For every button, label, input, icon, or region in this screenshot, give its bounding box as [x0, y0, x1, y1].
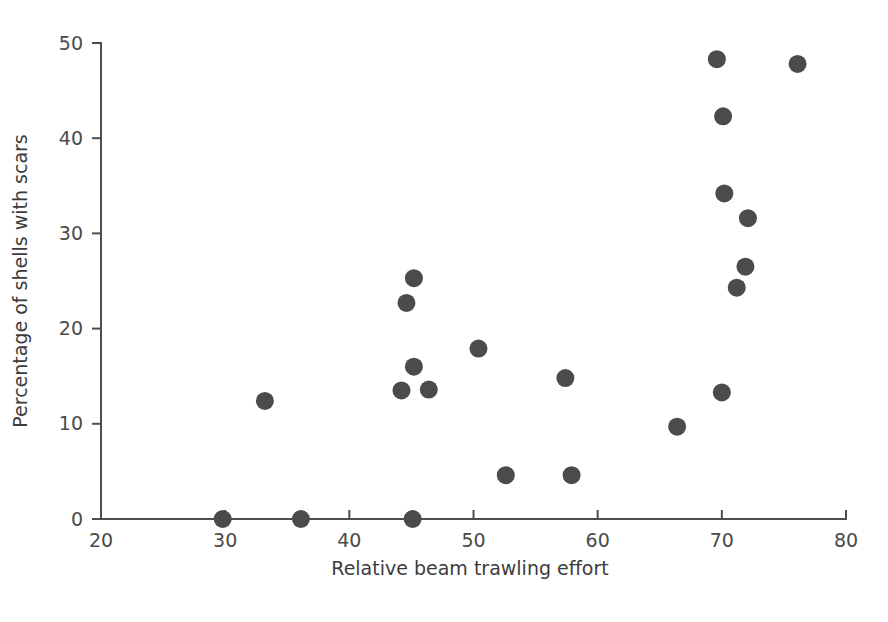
data-point	[736, 258, 754, 276]
y-tick-label: 50	[59, 32, 83, 54]
y-tick-label: 40	[59, 127, 83, 149]
x-tick-label: 70	[710, 529, 734, 551]
y-tick-label: 10	[59, 412, 83, 434]
data-point	[714, 107, 732, 125]
y-tick-label: 0	[71, 508, 83, 530]
y-axis-title: Percentage of shells with scars	[9, 134, 31, 427]
data-point	[708, 50, 726, 68]
data-point	[556, 369, 574, 387]
data-point	[497, 466, 515, 484]
data-point	[405, 269, 423, 287]
data-point	[713, 383, 731, 401]
data-point	[256, 392, 274, 410]
figure-container: 01020304050 20304050607080 Relative beam…	[0, 0, 888, 622]
x-axis-title: Relative beam trawling effort	[331, 557, 608, 579]
data-point	[789, 55, 807, 73]
data-point	[404, 510, 422, 528]
scatter-plot: 01020304050 20304050607080 Relative beam…	[0, 0, 888, 622]
data-point	[397, 294, 415, 312]
x-tick-label: 50	[461, 529, 485, 551]
data-point	[739, 209, 757, 227]
data-point	[728, 279, 746, 297]
data-point	[214, 510, 232, 528]
x-tick-label: 60	[586, 529, 610, 551]
y-axis-ticks: 01020304050	[59, 32, 101, 530]
data-point	[469, 340, 487, 358]
x-tick-label: 40	[337, 529, 361, 551]
y-tick-label: 20	[59, 317, 83, 339]
data-point	[292, 510, 310, 528]
x-tick-label: 80	[834, 529, 858, 551]
data-points-group	[214, 50, 807, 528]
x-tick-label: 30	[213, 529, 237, 551]
data-point	[405, 358, 423, 376]
data-point	[563, 466, 581, 484]
data-point	[668, 418, 686, 436]
data-point	[715, 184, 733, 202]
y-tick-label: 30	[59, 222, 83, 244]
data-point	[420, 381, 438, 399]
data-point	[392, 381, 410, 399]
x-axis-ticks: 20304050607080	[89, 510, 858, 551]
x-tick-label: 20	[89, 529, 113, 551]
figure-caption	[4, 613, 884, 622]
